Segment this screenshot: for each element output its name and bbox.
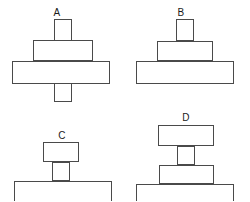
a-medium-rectangle: [34, 41, 93, 61]
shapes-layer: [0, 0, 250, 201]
b-base-rectangle: [137, 62, 234, 84]
a-vertical-post: [55, 20, 72, 102]
d-medium-rectangle: [160, 166, 214, 184]
diagram-canvas: A B C D: [0, 0, 250, 201]
a-wide-rectangle: [13, 62, 110, 84]
d-vertical-post: [178, 147, 195, 165]
c-base-rectangle: [15, 182, 112, 202]
b-middle-rectangle: [158, 42, 213, 61]
figure-a-label: A: [51, 8, 63, 18]
figure-d-label: D: [180, 113, 192, 123]
figure-b-label: B: [175, 8, 187, 18]
c-top-rectangle: [44, 143, 79, 162]
d-top-rectangle: [159, 126, 214, 146]
figure-c-label: C: [56, 131, 68, 141]
d-base-rectangle: [137, 185, 234, 202]
b-top-rectangle: [177, 20, 194, 41]
c-vertical-post: [53, 163, 70, 181]
